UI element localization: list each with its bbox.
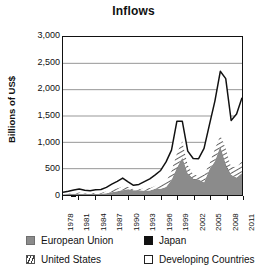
x-tick-mark [111,196,112,200]
x-tick-label: 1990 [132,197,141,231]
solid-gray-swatch-icon [26,236,35,245]
x-tick-mark [144,196,145,200]
x-tick-mark [62,196,63,200]
solid-black-swatch-icon [144,236,153,245]
x-tick-label: 1981 [82,197,91,231]
legend-label-european-union: European Union [41,235,113,246]
x-tick-mark [177,196,178,200]
x-tick-label: 1996 [165,197,174,231]
chart-figure: Inflows Billions of US$ 05001,0001,5002,… [0,0,267,279]
x-tick-mark [227,196,228,200]
x-tick-mark [161,196,162,200]
x-tick-mark [194,196,195,200]
legend-label-developing-countries: Developing Countries [159,254,255,265]
x-tick-label: 1978 [66,197,75,231]
legend-row-1: European Union Japan [26,231,258,250]
legend-item-united-states[interactable]: United States [26,254,144,265]
legend-item-developing-countries[interactable]: Developing Countries [144,254,255,265]
x-tick-mark [78,196,79,200]
x-tick-label: 1999 [181,197,190,231]
legend-item-european-union[interactable]: European Union [26,235,144,246]
x-tick-label: 2011 [247,197,256,231]
x-tick-label: 2005 [214,197,223,231]
legend-label-japan: Japan [159,235,186,246]
x-tick-label: 1987 [115,197,124,231]
legend-label-united-states: United States [41,254,101,265]
legend-row-2: United States Developing Countries [26,250,258,269]
x-tick-mark [243,196,244,200]
x-tick-mark [128,196,129,200]
hatched-swatch-icon [26,255,35,264]
outline-white-swatch-icon [144,255,153,264]
x-tick-mark [210,196,211,200]
x-tick-label: 1984 [99,197,108,231]
x-tick-label: 1993 [148,197,157,231]
legend-item-japan[interactable]: Japan [144,235,186,246]
x-tick-label: 2008 [231,197,240,231]
x-tick-label: 2002 [198,197,207,231]
x-tick-mark [95,196,96,200]
chart-legend: European Union Japan United States Devel… [26,231,258,269]
